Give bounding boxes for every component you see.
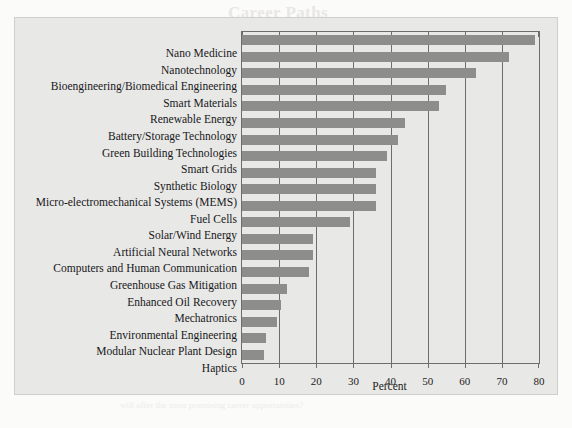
- bar-row: [242, 231, 539, 248]
- x-axis-tick: [391, 363, 392, 368]
- bar: [242, 350, 264, 360]
- bar-row: [242, 82, 539, 99]
- bar: [242, 118, 405, 128]
- bar: [242, 217, 350, 227]
- x-axis-tick: [428, 363, 429, 368]
- bar: [242, 250, 313, 260]
- category-label: Synthetic Biology: [12, 180, 237, 192]
- bar-row: [242, 98, 539, 115]
- bar-row: [242, 131, 539, 148]
- bar: [242, 333, 266, 343]
- bar: [242, 168, 376, 178]
- category-label: Smart Materials: [12, 97, 237, 109]
- bar: [242, 284, 287, 294]
- bar: [242, 317, 277, 327]
- bar-row: [242, 65, 539, 82]
- bar-row: [242, 297, 539, 314]
- category-label: Micro-electromechanical Systems (MEMS): [12, 196, 237, 208]
- bar: [242, 234, 313, 244]
- bar-row: [242, 264, 539, 281]
- plot-wrapper: 01020304050607080Nano MedicineNanotechno…: [15, 18, 559, 396]
- bar-row: [242, 198, 539, 215]
- x-axis-tick: [465, 363, 466, 368]
- category-label: Bioengineering/Biomedical Engineering: [12, 80, 237, 92]
- category-label: Green Building Technologies: [12, 147, 237, 159]
- x-axis-tick: [316, 363, 317, 368]
- bar-row: [242, 164, 539, 181]
- bar-row: [242, 32, 539, 49]
- plot-area: 01020304050607080Nano MedicineNanotechno…: [241, 31, 540, 364]
- category-label: Nanotechnology: [12, 64, 237, 76]
- x-axis-tick: [538, 363, 539, 368]
- category-label: Fuel Cells: [12, 213, 237, 225]
- bar-row: [242, 313, 539, 330]
- bar-row: [242, 330, 539, 347]
- bar-row: [242, 214, 539, 231]
- bar: [242, 35, 535, 45]
- chart-figure: 01020304050607080Nano MedicineNanotechno…: [14, 17, 558, 395]
- bar: [242, 300, 281, 310]
- category-label: Mechatronics: [12, 312, 237, 324]
- x-axis-tick: [353, 363, 354, 368]
- bleed-through-line-2: will offer the most promising career opp…: [120, 400, 303, 410]
- bar: [242, 135, 398, 145]
- bar-row: [242, 148, 539, 165]
- bar: [242, 201, 376, 211]
- bar: [242, 85, 446, 95]
- category-label: Environmental Engineering: [12, 329, 237, 341]
- bar: [242, 52, 509, 62]
- chart-page: Career Paths In the near future, which o…: [0, 0, 572, 428]
- bar: [242, 68, 476, 78]
- category-label: Nano Medicine: [12, 47, 237, 59]
- bar-row: [242, 247, 539, 264]
- category-label: Modular Nuclear Plant Design: [12, 345, 237, 357]
- category-label: Smart Grids: [12, 163, 237, 175]
- bar-row: [242, 346, 539, 363]
- bar: [242, 151, 387, 161]
- bar-row: [242, 49, 539, 66]
- category-label: Renewable Energy: [12, 113, 237, 125]
- category-label: Artificial Neural Networks: [12, 246, 237, 258]
- category-label: Enhanced Oil Recovery: [12, 296, 237, 308]
- bar: [242, 184, 376, 194]
- category-label: Greenhouse Gas Mitigation: [12, 279, 237, 291]
- category-label: Haptics: [12, 362, 237, 374]
- bar-row: [242, 280, 539, 297]
- category-label: Battery/Storage Technology: [12, 130, 237, 142]
- x-axis-tick: [279, 363, 280, 368]
- x-axis-title: Percent: [241, 380, 538, 392]
- category-label: Computers and Human Communication: [12, 262, 237, 274]
- bar-row: [242, 115, 539, 132]
- bar-row: [242, 181, 539, 198]
- x-axis-tick: [502, 363, 503, 368]
- category-label: Solar/Wind Energy: [12, 229, 237, 241]
- bar: [242, 267, 309, 277]
- x-axis-tick: [242, 363, 243, 368]
- bar: [242, 101, 439, 111]
